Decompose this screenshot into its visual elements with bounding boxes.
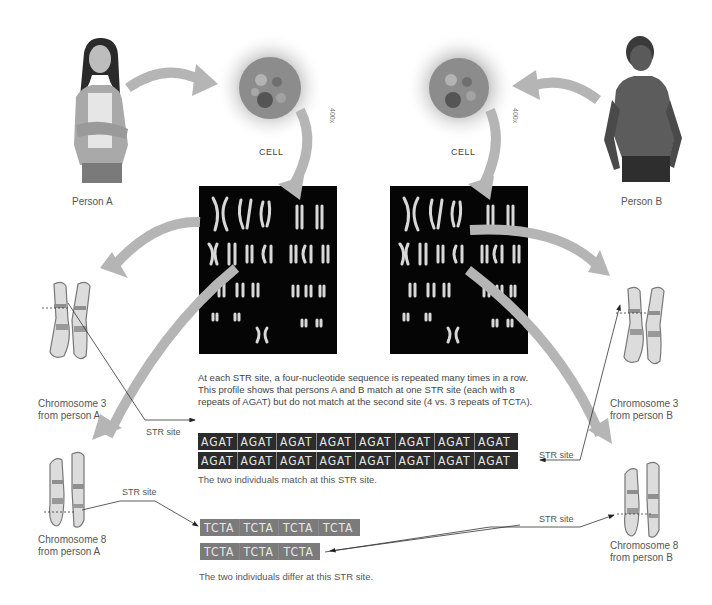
person-b-label: Person B	[621, 196, 662, 208]
repeat-unit: AGAT	[198, 452, 238, 469]
str-site-label-b3: STR site	[539, 450, 574, 460]
karyotype-left	[199, 186, 337, 354]
repeat-unit: AGAT	[396, 433, 436, 450]
repeat-unit: AGAT	[277, 433, 317, 450]
repeat-unit: AGAT	[317, 452, 357, 469]
repeat-unit: AGAT	[435, 433, 475, 450]
repeat-unit: AGAT	[356, 452, 396, 469]
chromosome-3-person-b	[614, 285, 674, 367]
chromosome-3-person-a-label: Chromosome 3 from person A	[38, 398, 106, 422]
repeat-unit: TCTA	[200, 543, 240, 560]
repeat-unit: AGAT	[435, 452, 475, 469]
person-b-photo	[600, 30, 685, 185]
repeat-unit: AGAT	[356, 433, 396, 450]
sequence-tcta-person-a: TCTA TCTA TCTA TCTA	[200, 519, 360, 536]
str-site-label-a8: STR site	[122, 487, 157, 497]
match-caption: The two individuals match at this STR si…	[198, 474, 377, 485]
str-site-label-b8: STR site	[539, 514, 574, 524]
cell-right-magnification: 400x	[512, 108, 519, 123]
repeat-unit: AGAT	[238, 452, 278, 469]
cell-left-magnification: 400x	[329, 108, 336, 123]
cell-left-label: CELL	[259, 147, 284, 157]
repeat-unit: AGAT	[198, 433, 238, 450]
chromosome-8-person-a-label: Chromosome 8 from person A	[38, 534, 106, 558]
chromosome-8-person-b-label: Chromosome 8 from person B	[610, 540, 678, 564]
repeat-unit: TCTA	[279, 543, 319, 560]
repeat-unit: AGAT	[317, 433, 357, 450]
str-site-label-a3: STR site	[146, 427, 181, 437]
cell-left-image	[215, 32, 325, 142]
repeat-unit: AGAT	[238, 433, 278, 450]
repeat-unit: AGAT	[277, 452, 317, 469]
person-a-photo	[62, 35, 137, 185]
repeat-unit: TCTA	[319, 519, 359, 536]
chromosome-8-person-b	[617, 460, 667, 540]
repeat-unit: AGAT	[396, 452, 436, 469]
repeat-unit: AGAT	[475, 433, 515, 450]
repeat-unit: TCTA	[240, 519, 280, 536]
repeat-unit: TCTA	[240, 543, 280, 560]
chromosome-8-person-a	[42, 450, 92, 530]
chromosome-3-person-a	[40, 280, 100, 362]
sequence-agat-person-a: AGAT AGAT AGAT AGAT AGAT AGAT AGAT AGAT	[198, 433, 518, 450]
chromosome-3-person-b-label: Chromosome 3 from person B	[610, 398, 678, 422]
differ-caption: The two individuals differ at this STR s…	[199, 571, 373, 582]
sequence-agat-person-b: AGAT AGAT AGAT AGAT AGAT AGAT AGAT AGAT	[198, 452, 518, 469]
repeat-unit: TCTA	[200, 519, 240, 536]
cell-right-label: CELL	[451, 147, 476, 157]
repeat-unit: AGAT	[475, 452, 515, 469]
karyotype-right	[390, 186, 528, 354]
intro-paragraph: At each STR site, a four-nucleotide sequ…	[198, 372, 538, 408]
cell-right-image	[405, 32, 515, 142]
person-a-label: Person A	[72, 196, 113, 208]
sequence-tcta-person-b: TCTA TCTA TCTA	[200, 543, 320, 560]
repeat-unit: TCTA	[279, 519, 319, 536]
